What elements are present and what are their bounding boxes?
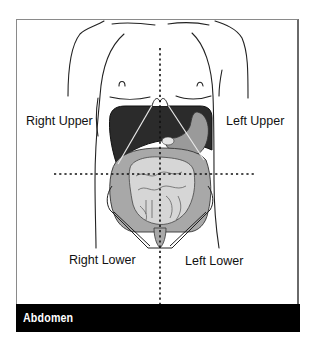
caption-title: Abdomen	[23, 310, 73, 325]
caption-banner: Abdomen	[16, 304, 300, 332]
abdomen-diagram	[0, 0, 311, 346]
label-right-lower: Right Lower	[69, 253, 136, 267]
label-left-upper: Left Upper	[226, 114, 284, 128]
label-right-upper: Right Upper	[26, 114, 93, 128]
label-left-lower: Left Lower	[185, 254, 243, 268]
xiphoid	[152, 99, 168, 106]
